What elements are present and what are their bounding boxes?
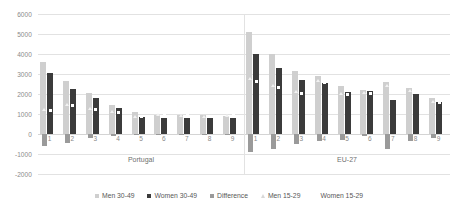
marker-men-15-29: [431, 100, 435, 103]
marker-women-15-29: [232, 114, 235, 117]
x-axis-tick-label: 8: [198, 135, 221, 147]
legend-item[interactable]: Women 30-49: [147, 192, 197, 199]
panel-label-eu27: EU-27: [244, 156, 450, 163]
panel-portugal: [38, 14, 244, 174]
marker-women-15-29: [415, 91, 418, 94]
panel-labels: Portugal EU-27: [38, 156, 450, 168]
bar-men-30-49: [315, 76, 321, 134]
marker-women-15-29: [209, 115, 212, 118]
marker-women-15-29: [255, 80, 258, 83]
bar-stack: [290, 14, 313, 174]
legend-item[interactable]: Women 15-29: [313, 192, 363, 199]
bar-stack: [107, 14, 130, 174]
bar-men-30-49: [292, 71, 298, 134]
marker-women-15-29: [49, 109, 52, 112]
bar-women-30-49: [390, 100, 396, 134]
bar-women-30-49: [299, 80, 305, 134]
x-axis-tick-label: 8: [404, 135, 427, 147]
x-axis-tick-label: 9: [221, 135, 244, 147]
marker-men-15-29: [110, 110, 114, 113]
bar-stack: [84, 14, 107, 174]
marker-men-15-29: [339, 92, 343, 95]
bar-women-30-49: [276, 68, 282, 134]
bar-men-30-49: [177, 115, 183, 134]
x-axis-tick-label: 9: [427, 135, 450, 147]
legend-square-icon: [210, 194, 214, 198]
marker-women-15-29: [438, 101, 441, 104]
x-axis-tick-label: 3: [84, 135, 107, 147]
bar-group: [381, 14, 404, 174]
bar-stack: [313, 14, 336, 174]
legend-item[interactable]: Men 30-49: [95, 192, 135, 199]
bar-men-30-49: [40, 62, 46, 134]
y-axis-tick-label: 6000: [0, 11, 32, 18]
bar-women-30-49: [161, 118, 167, 134]
bar-group: [404, 14, 427, 174]
marker-men-15-29: [408, 89, 412, 92]
bar-stack: [152, 14, 175, 174]
marker-men-15-29: [156, 113, 160, 116]
bar-group: [130, 14, 153, 174]
bar-women-30-49: [367, 91, 373, 134]
marker-men-15-29: [385, 84, 389, 87]
bar-groups: [38, 14, 450, 174]
marker-men-15-29: [248, 77, 252, 80]
legend-label: Women 30-49: [154, 192, 197, 199]
plot-area: [38, 14, 450, 174]
x-axis-tick-label: 7: [381, 135, 404, 147]
x-axis-tick-label: 6: [152, 135, 175, 147]
bar-men-30-49: [246, 32, 252, 134]
marker-women-15-29: [277, 86, 280, 89]
marker-men-15-29: [294, 90, 298, 93]
x-axis-tick-label: 4: [107, 135, 130, 147]
panel-eu27: [244, 14, 450, 174]
bar-women-30-49: [93, 98, 99, 134]
bar-group: [427, 14, 450, 174]
x-axis-tick-label: 6: [358, 135, 381, 147]
bar-stack: [267, 14, 290, 174]
chart-figure: 6000500040003000200010000-1000-2000 1234…: [0, 0, 458, 220]
y-axis-tick-label: 1000: [0, 111, 32, 118]
bar-men-30-49: [223, 116, 229, 134]
legend-label: Men 15-29: [268, 192, 301, 199]
x-axis-tick-label: 5: [336, 135, 359, 147]
bar-stack: [404, 14, 427, 174]
bar-group: [152, 14, 175, 174]
bar-men-30-49: [154, 115, 160, 134]
marker-women-15-29: [186, 114, 189, 117]
bar-men-30-49: [360, 90, 366, 134]
legend-item[interactable]: Men 15-29: [261, 192, 301, 199]
bar-women-30-49: [139, 117, 145, 134]
bar-group: [313, 14, 336, 174]
bar-group: [267, 14, 290, 174]
marker-men-15-29: [362, 91, 366, 94]
y-axis-tick-label: 4000: [0, 51, 32, 58]
bar-men-30-49: [406, 88, 412, 134]
x-axis-tick-label: 2: [61, 135, 84, 147]
bar-women-30-49: [230, 118, 236, 134]
legend-item[interactable]: Difference: [210, 192, 248, 199]
marker-women-15-29: [323, 81, 326, 84]
bar-women-30-49: [47, 73, 53, 134]
bar-women-30-49: [253, 54, 259, 134]
bar-group: [358, 14, 381, 174]
bar-group: [244, 14, 267, 174]
y-axis: 6000500040003000200010000-1000-2000: [0, 14, 36, 174]
marker-women-15-29: [392, 86, 395, 89]
marker-women-15-29: [94, 108, 97, 111]
marker-men-15-29: [179, 114, 183, 117]
bar-stack: [38, 14, 61, 174]
bar-women-30-49: [436, 102, 442, 134]
y-axis-tick-label: 2000: [0, 91, 32, 98]
y-axis-tick-label: 3000: [0, 71, 32, 78]
y-axis-tick-label: 0: [0, 131, 32, 138]
bar-stack: [427, 14, 450, 174]
bar-stack: [381, 14, 404, 174]
legend-triangle-icon: [261, 194, 265, 198]
legend-label: Women 15-29: [320, 192, 363, 199]
legend-label: Difference: [217, 192, 248, 199]
x-axis-tick-label: 5: [130, 135, 153, 147]
bar-stack: [221, 14, 244, 174]
bar-group: [61, 14, 84, 174]
chart-legend: Men 30-49Women 30-49DifferenceMen 15-29W…: [0, 192, 458, 199]
